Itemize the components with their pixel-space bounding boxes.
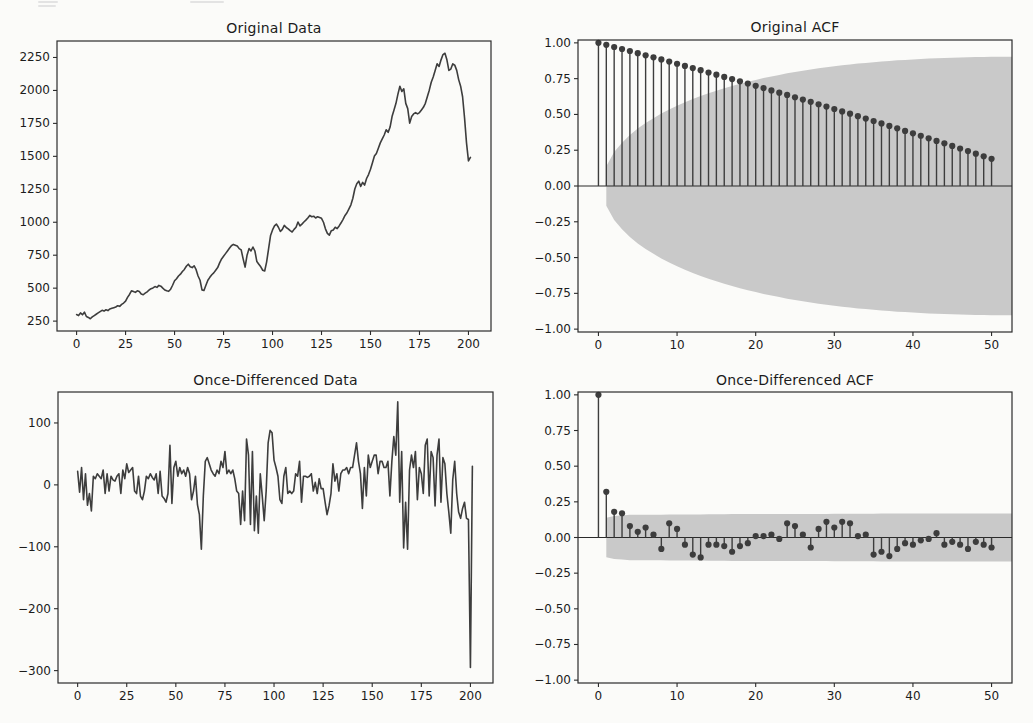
y-tick-label: −1.00 <box>534 322 571 336</box>
stem-marker <box>635 50 641 56</box>
stem-marker <box>894 546 900 552</box>
stem-marker <box>973 151 979 157</box>
y-tick-label: 1.00 <box>544 36 571 50</box>
chart-title-once-differenced-acf: Once-Differenced ACF <box>578 372 1012 388</box>
x-tick-label: 0 <box>595 338 603 352</box>
y-tick-label: −0.75 <box>534 286 571 300</box>
stem-marker <box>949 143 955 149</box>
x-tick-label: 50 <box>984 689 999 703</box>
x-tick-label: 125 <box>312 689 335 703</box>
stem-marker <box>682 63 688 69</box>
y-tick-label: 2250 <box>19 50 50 64</box>
stem-marker <box>957 145 963 151</box>
stem-marker <box>721 543 727 549</box>
y-tick-label: 0.25 <box>544 143 571 157</box>
stem-marker <box>650 532 656 538</box>
stem-marker <box>737 78 743 84</box>
stem-marker <box>839 519 845 525</box>
stem-marker <box>800 532 806 538</box>
figure-canvas: 0255075100125150175200250500750100012501… <box>0 0 1033 723</box>
x-tick-label: 10 <box>669 338 684 352</box>
y-tick-label: 0.00 <box>544 179 571 193</box>
y-tick-label: 0 <box>43 478 51 492</box>
y-tick-label: 0.75 <box>544 424 571 438</box>
stem-marker <box>768 532 774 538</box>
x-tick-label: 100 <box>263 689 286 703</box>
x-tick-label: 75 <box>216 337 231 351</box>
stem-marker <box>933 530 939 536</box>
stem-marker <box>902 128 908 134</box>
x-tick-label: 25 <box>118 337 133 351</box>
stem-marker <box>847 520 853 526</box>
stem-marker <box>745 80 751 86</box>
stem-marker <box>776 536 782 542</box>
stem-marker <box>823 103 829 109</box>
data-line <box>78 402 473 668</box>
x-tick-label: 50 <box>984 338 999 352</box>
stem-marker <box>863 115 869 121</box>
stem-marker <box>658 546 664 552</box>
y-tick-label: 100 <box>28 416 51 430</box>
subplot-original-data: 0255075100125150175200250500750100012501… <box>19 41 491 351</box>
x-tick-label: 50 <box>167 337 182 351</box>
y-tick-label: 2000 <box>19 83 50 97</box>
stem-marker <box>611 509 617 515</box>
x-tick-label: 30 <box>827 689 842 703</box>
stem-marker <box>690 552 696 558</box>
acf-stems <box>595 392 994 561</box>
subplot-original-acf: 010203040501.000.750.500.250.00−0.25−0.5… <box>534 36 1012 352</box>
stem-marker <box>808 99 814 105</box>
stem-marker <box>918 133 924 139</box>
x-tick-label: 30 <box>827 338 842 352</box>
stem-marker <box>643 524 649 530</box>
stem-marker <box>815 526 821 532</box>
x-tick-label: 0 <box>73 337 81 351</box>
stem-marker <box>705 542 711 548</box>
stem-marker <box>603 42 609 48</box>
stem-marker <box>713 542 719 548</box>
stem-marker <box>871 552 877 558</box>
x-tick-label: 40 <box>905 689 920 703</box>
stem-marker <box>792 94 798 100</box>
stem-marker <box>792 523 798 529</box>
x-tick-label: 40 <box>905 338 920 352</box>
stem-marker <box>918 537 924 543</box>
y-tick-label: 0.50 <box>544 107 571 121</box>
stem-marker <box>745 540 751 546</box>
stem-marker <box>965 546 971 552</box>
stem-marker <box>595 40 601 46</box>
x-tick-label: 100 <box>261 337 284 351</box>
y-tick-label: 0.75 <box>544 72 571 86</box>
y-tick-label: 500 <box>27 281 50 295</box>
scan-artifact <box>190 1 224 3</box>
y-tick-label: −300 <box>18 664 51 678</box>
y-tick-label: 1750 <box>19 116 50 130</box>
stem-marker <box>666 59 672 65</box>
stem-marker <box>910 130 916 136</box>
scan-artifact <box>38 5 56 7</box>
plots-svg: 0255075100125150175200250500750100012501… <box>0 0 1033 723</box>
stem-marker <box>878 549 884 555</box>
stem-marker <box>713 72 719 78</box>
stem-marker <box>988 156 994 162</box>
stem-marker <box>933 138 939 144</box>
axes-frame <box>57 41 491 331</box>
stem-marker <box>988 544 994 550</box>
data-line <box>77 53 471 318</box>
subplot-once-differenced-data: 02550751001251501752001000−100−200−300 <box>18 392 493 703</box>
stem-marker <box>760 533 766 539</box>
stem-marker <box>776 90 782 96</box>
stem-marker <box>981 542 987 548</box>
stem-marker <box>705 69 711 75</box>
y-tick-label: 750 <box>27 248 50 262</box>
stem-marker <box>871 118 877 124</box>
y-tick-label: −100 <box>18 540 51 554</box>
stem-marker <box>595 392 601 398</box>
x-tick-label: 10 <box>669 689 684 703</box>
y-tick-label: 1000 <box>19 215 50 229</box>
stem-marker <box>666 520 672 526</box>
stem-marker <box>831 524 837 530</box>
x-tick-label: 125 <box>310 337 333 351</box>
axes-frame <box>58 392 493 683</box>
stem-marker <box>949 539 955 545</box>
